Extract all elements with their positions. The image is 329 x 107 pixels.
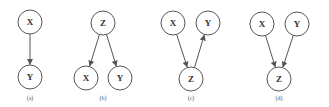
node-y: Y [18,65,42,89]
node-label: Y [205,18,212,28]
node-label: X [83,73,90,83]
edge-arrow-z-to-y [107,34,117,66]
causal-diagram: XY(a)ZXY(b)XYZ(c)XYZ(d) [0,0,329,107]
node-x: X [250,12,274,36]
node-label: X [170,18,177,28]
panel-b: ZXY(b) [74,11,132,102]
node-y: Y [108,66,132,90]
node-label: Y [117,73,124,83]
panel-caption: (b) [100,95,107,102]
panels-group: XY(a)ZXY(b)XYZ(c)XYZ(d) [18,10,309,102]
node-label: X [27,17,34,27]
panel-caption: (c) [188,95,195,102]
panel-caption: (a) [27,95,34,102]
edge-arrow-y-to-z [283,35,293,67]
edge-arrow-x-to-z [177,34,188,67]
node-y: Y [196,11,220,35]
node-z: Z [267,67,291,91]
node-x: X [74,66,98,90]
edge-arrow-x-to-z [266,35,276,67]
panel-a: XY(a) [18,10,42,102]
panel-caption: (d) [276,95,283,102]
node-label: Y [27,72,34,82]
edge-arrow-z-to-y [194,35,204,68]
node-label: Z [188,74,194,84]
node-x: X [18,10,42,34]
node-z: Z [91,11,115,35]
panel-d: XYZ(d) [250,12,309,102]
node-label: Z [100,18,106,28]
node-z: Z [179,67,203,91]
edge-arrow-z-to-x [90,34,100,66]
node-label: Y [294,19,301,29]
node-y: Y [285,12,309,36]
node-label: X [259,19,266,29]
panel-c: XYZ(c) [161,11,220,102]
node-label: Z [276,74,282,84]
node-x: X [161,11,185,35]
